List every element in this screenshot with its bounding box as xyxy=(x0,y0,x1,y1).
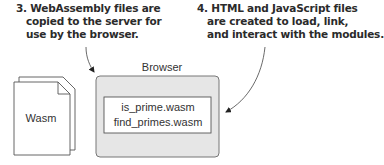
callout-3-line-3: use by the browser. xyxy=(16,28,162,41)
module-is-prime: is_prime.wasm xyxy=(103,100,213,115)
callout-3: 3. WebAssembly files are copied to the s… xyxy=(16,2,162,41)
browser-label: Browser xyxy=(132,61,192,73)
callout-4-line-3: and interact with the modules. xyxy=(197,28,384,41)
callout-3-arrow xyxy=(86,47,94,72)
callout-4-arrow xyxy=(226,47,265,112)
module-find-primes: find_primes.wasm xyxy=(103,115,213,130)
module-list: is_prime.wasm find_primes.wasm xyxy=(103,100,213,130)
wasm-label: Wasm xyxy=(13,112,69,124)
callout-3-line-2: copied to the server for xyxy=(16,15,162,28)
callout-3-line-1: 3. WebAssembly files are xyxy=(16,2,162,15)
callout-4-line-1: 4. HTML and JavaScript files xyxy=(197,2,384,15)
callout-4: 4. HTML and JavaScript files are created… xyxy=(197,2,384,41)
callout-4-line-2: are created to load, link, xyxy=(197,15,384,28)
